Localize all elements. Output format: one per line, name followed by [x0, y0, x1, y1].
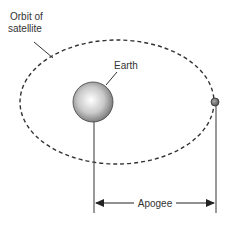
- earth-label: Earth: [114, 60, 138, 71]
- earth-leader-line: [106, 72, 117, 85]
- apogee-label: Apogee: [138, 198, 173, 209]
- orbit-label-line1: Orbit of: [10, 11, 43, 22]
- earth-icon: [73, 82, 113, 122]
- satellite-orbit: [20, 40, 214, 164]
- arrow-right-icon: [206, 199, 215, 207]
- orbit-label-line2: satellite: [8, 23, 42, 34]
- orbit-diagram: Orbit of satellite Earth Apogee: [0, 0, 232, 225]
- satellite-icon: [211, 98, 219, 106]
- orbit-leader-line: [34, 42, 53, 58]
- arrow-left-icon: [95, 199, 104, 207]
